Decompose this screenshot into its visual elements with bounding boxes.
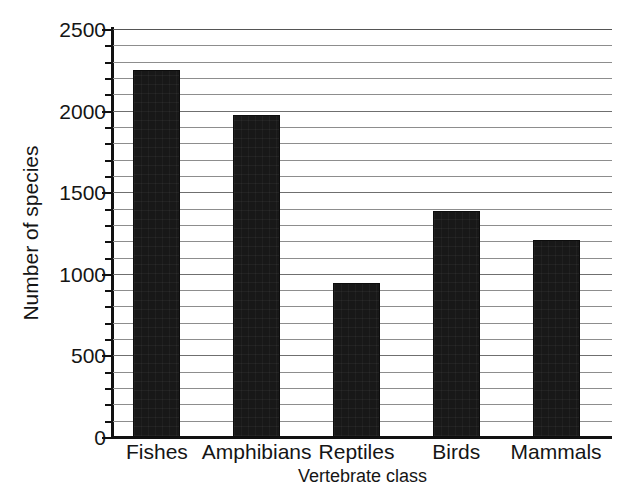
- y-axis-minor-tick: [105, 160, 113, 162]
- y-axis-minor-tick: [105, 323, 113, 325]
- y-axis-minor-tick: [105, 241, 113, 243]
- y-axis-minor-tick: [105, 306, 113, 308]
- gridline: [113, 192, 612, 193]
- bar-chart: Number of species 05001000150020002500 F…: [0, 0, 617, 494]
- y-axis-major-tick: [102, 192, 113, 194]
- gridline: [113, 94, 612, 95]
- y-axis-minor-tick: [105, 404, 113, 406]
- y-axis-minor-tick: [105, 339, 113, 341]
- y-axis-major-tick: [102, 29, 113, 31]
- gridline: [113, 127, 612, 128]
- y-axis-major-tick: [102, 274, 113, 276]
- x-axis-tick-label: Fishes: [126, 440, 188, 464]
- y-axis-minor-tick: [105, 290, 113, 292]
- y-axis-minor-tick: [105, 143, 113, 145]
- y-axis-minor-tick: [105, 372, 113, 374]
- y-axis-minor-tick: [105, 62, 113, 64]
- y-axis-major-tick: [102, 111, 113, 113]
- y-axis-tick-label: 0: [36, 427, 106, 448]
- gridline: [113, 143, 612, 144]
- x-axis-tick-label: Birds: [432, 440, 480, 464]
- bar-birds: [433, 211, 480, 437]
- y-axis-minor-tick: [105, 258, 113, 260]
- plot-area: [113, 29, 612, 437]
- gridline: [113, 111, 612, 112]
- y-axis-minor-tick: [105, 225, 113, 227]
- y-axis-minor-tick: [105, 94, 113, 96]
- y-axis-tick-label: 1000: [36, 263, 106, 284]
- x-axis-tick-label: Mammals: [511, 440, 602, 464]
- bar-amphibians: [233, 115, 280, 437]
- y-axis-tick-labels: 05001000150020002500: [38, 0, 106, 494]
- y-axis-major-tick: [102, 437, 113, 439]
- y-axis-tick-label: 1500: [36, 182, 106, 203]
- x-axis-title: Vertebrate class: [113, 466, 612, 487]
- gridline: [113, 225, 612, 226]
- y-axis-tick-label: 500: [36, 345, 106, 366]
- y-axis-minor-tick: [105, 45, 113, 47]
- bar-reptiles: [333, 283, 380, 437]
- y-axis-minor-tick: [105, 209, 113, 211]
- y-axis-tick-label: 2500: [36, 19, 106, 40]
- gridline: [113, 209, 612, 210]
- y-axis-tick-label: 2000: [36, 100, 106, 121]
- y-axis-minor-tick: [105, 388, 113, 390]
- gridline: [113, 78, 612, 79]
- x-axis-tick-label: Reptiles: [319, 440, 395, 464]
- y-axis-minor-tick: [105, 78, 113, 80]
- y-axis-major-tick: [102, 355, 113, 357]
- gridline: [113, 62, 612, 63]
- y-axis-minor-tick: [105, 176, 113, 178]
- y-axis-minor-tick: [105, 127, 113, 129]
- gridline: [113, 45, 612, 46]
- x-axis-tick-label: Amphibians: [202, 440, 312, 464]
- gridline: [113, 176, 612, 177]
- bar-mammals: [533, 240, 580, 437]
- y-axis-minor-tick: [105, 421, 113, 423]
- gridline: [113, 160, 612, 161]
- gridline: [113, 29, 612, 30]
- bar-fishes: [133, 70, 180, 437]
